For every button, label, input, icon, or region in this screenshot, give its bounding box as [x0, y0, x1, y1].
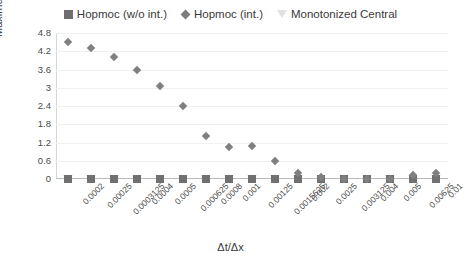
gridline [56, 70, 448, 71]
legend-item-hopmoc-wo-int[interactable]: Hopmoc (w/o int.) [64, 8, 167, 20]
x-axis-title: Δt/Δx [0, 241, 461, 253]
gridline [56, 106, 448, 107]
y-axis-tick-label: 2.4 [25, 101, 51, 111]
data-point-diamond [156, 82, 164, 90]
x-axis-tick-labels: 0.00020.000250.00031250.00040.00050.0006… [56, 181, 448, 239]
gridline [56, 161, 448, 162]
gridline [56, 33, 448, 34]
x-axis-tick-label: 0.002 [309, 181, 331, 203]
diamond-marker-icon [181, 9, 191, 19]
x-axis-tick-label: 0.00125 [266, 181, 295, 210]
gridline [56, 88, 448, 89]
y-axis-tick-label: 3 [25, 83, 51, 93]
x-axis-tick-label: 0.001 [240, 181, 262, 203]
gridline [56, 51, 448, 52]
legend-item-monotonized-central[interactable]: Monotonized Central [277, 8, 397, 20]
x-axis-tick-label: 0.0025 [334, 181, 359, 206]
legend-label: Hopmoc (int.) [194, 8, 263, 20]
data-point-diamond [271, 157, 279, 165]
data-point-diamond [225, 143, 233, 151]
x-axis-tick-label: 0.0005 [172, 181, 197, 206]
y-axis-tick-label: 0.6 [25, 156, 51, 166]
y-axis-tick-label: 1.2 [25, 138, 51, 148]
y-axis-tick-label: 0 [25, 174, 51, 184]
triangle-marker-icon [277, 10, 287, 18]
y-axis-tick-label: 4.2 [25, 46, 51, 56]
x-axis-tick-label: 0.0002 [80, 181, 105, 206]
legend-item-hopmoc-int[interactable]: Hopmoc (int.) [181, 8, 263, 20]
y-axis-tick-label: 3.6 [25, 65, 51, 75]
data-point-diamond [63, 38, 71, 46]
chart-legend: Hopmoc (w/o int.) Hopmoc (int.) Monotoni… [0, 8, 461, 20]
data-point-diamond [132, 65, 140, 73]
square-marker-icon [64, 10, 73, 19]
data-point-diamond [109, 53, 117, 61]
x-axis-tick-label: 0.00025 [105, 181, 134, 210]
y-axis-tick-label: 1.8 [25, 119, 51, 129]
data-point-diamond [179, 102, 187, 110]
data-point-diamond [202, 132, 210, 140]
plot-area [56, 33, 448, 179]
legend-label: Hopmoc (w/o int.) [77, 8, 167, 20]
gridline [56, 124, 448, 125]
x-axis-tick-label: 0.005 [402, 181, 424, 203]
y-axis-tick-label: 4.8 [25, 28, 51, 38]
y-axis-title: Maximum error [0, 0, 4, 60]
legend-label: Monotonized Central [291, 8, 397, 20]
